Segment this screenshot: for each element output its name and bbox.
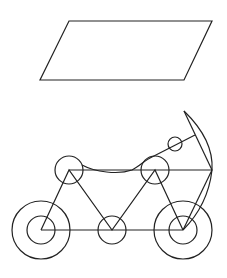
fork-lower-line [183, 170, 212, 230]
fork-inner-line [184, 111, 212, 170]
handlebar-stem [152, 135, 195, 157]
small-joint [168, 137, 182, 151]
bicycle-figure [12, 111, 212, 259]
parallelogram [40, 21, 212, 80]
frame-zigzag [41, 170, 183, 230]
diagram-canvas [0, 0, 227, 278]
